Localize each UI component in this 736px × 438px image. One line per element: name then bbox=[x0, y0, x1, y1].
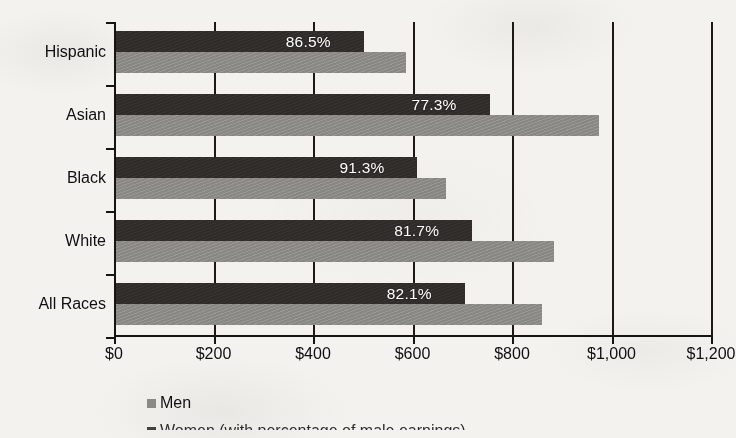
y-axis-category-label: All Races bbox=[2, 295, 106, 313]
x-axis-tick-label: $400 bbox=[295, 345, 331, 363]
x-axis-tick-label: $600 bbox=[395, 345, 431, 363]
x-axis-tick-label: $1,200 bbox=[687, 345, 736, 363]
y-axis-category-label: Asian bbox=[2, 106, 106, 124]
y-axis-tick bbox=[106, 274, 115, 276]
plot-area: 86.5%77.3%91.3%81.7%82.1% bbox=[114, 22, 711, 337]
bar-men bbox=[116, 304, 542, 325]
bar-value-label: 86.5% bbox=[286, 33, 331, 51]
y-axis-category-label: White bbox=[2, 232, 106, 250]
y-axis-category-labels: HispanicAsianBlackWhiteAll Races bbox=[0, 22, 106, 337]
x-axis-tick bbox=[214, 336, 216, 344]
x-axis-tick bbox=[313, 336, 315, 344]
bar-value-label: 91.3% bbox=[339, 159, 384, 177]
chart-legend: Men Women (with percentage of male earni… bbox=[0, 392, 736, 430]
bar-value-label: 82.1% bbox=[387, 285, 432, 303]
bar-group: 82.1% bbox=[116, 274, 711, 337]
x-axis-tick bbox=[512, 336, 514, 344]
bar-men bbox=[116, 178, 446, 199]
bar-group: 81.7% bbox=[116, 211, 711, 274]
x-axis-tick-labels: $0$200$400$600$800$1,000$1,200 bbox=[114, 345, 711, 369]
legend-label-women: Women (with percentage of male earnings) bbox=[160, 422, 466, 430]
gridline bbox=[711, 22, 713, 337]
bar-value-label: 81.7% bbox=[394, 222, 439, 240]
x-axis-tick-label: $200 bbox=[196, 345, 232, 363]
bar-chart: HispanicAsianBlackWhiteAll Races 86.5%77… bbox=[0, 0, 736, 438]
y-axis-tick bbox=[106, 85, 115, 87]
legend-item-women: Women (with percentage of male earnings) bbox=[0, 414, 736, 430]
x-axis-tick-label: $0 bbox=[105, 345, 123, 363]
bar-group: 86.5% bbox=[116, 22, 711, 85]
y-axis-category-label: Hispanic bbox=[2, 43, 106, 61]
legend-item-men: Men bbox=[0, 392, 736, 414]
legend-swatch-men-icon bbox=[147, 399, 156, 408]
bar-men bbox=[116, 52, 406, 73]
x-axis-tick-label: $800 bbox=[494, 345, 530, 363]
legend-swatch-women-icon bbox=[147, 427, 156, 431]
x-axis-tick bbox=[612, 336, 614, 344]
bar-men bbox=[116, 241, 554, 262]
bar-men bbox=[116, 115, 599, 136]
x-axis-tick bbox=[711, 336, 713, 344]
y-axis-tick bbox=[106, 148, 115, 150]
y-axis-category-label: Black bbox=[2, 169, 106, 187]
bar-group: 77.3% bbox=[116, 85, 711, 148]
y-axis-tick bbox=[106, 22, 115, 24]
x-axis-tick bbox=[114, 336, 116, 344]
bar-value-label: 77.3% bbox=[412, 96, 457, 114]
bar-group: 91.3% bbox=[116, 148, 711, 211]
y-axis-tick bbox=[106, 211, 115, 213]
x-axis-tick bbox=[413, 336, 415, 344]
x-axis-tick-label: $1,000 bbox=[587, 345, 636, 363]
legend-label-men: Men bbox=[160, 394, 191, 412]
